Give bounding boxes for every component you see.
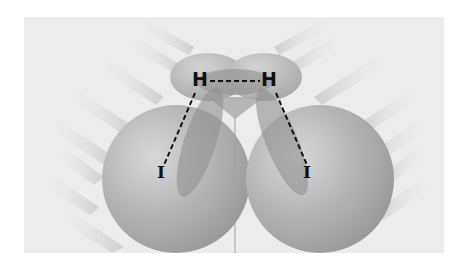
atom-label-i-right: I <box>303 164 311 181</box>
atom-label-h-left: H <box>192 70 208 89</box>
atom-label-h-right: H <box>261 70 277 89</box>
molecule-drawing <box>24 17 444 253</box>
atom-label-i-left: I <box>157 164 165 181</box>
iodine-sphere-left <box>102 105 250 253</box>
diagram-panel: H H I I <box>24 17 444 253</box>
